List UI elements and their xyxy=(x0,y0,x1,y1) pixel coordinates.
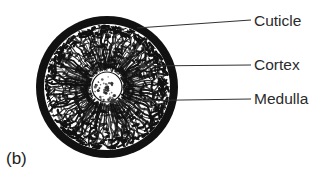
leader-dot-cortex xyxy=(141,64,145,68)
figure-container: Cuticle Cortex Medulla (b) xyxy=(0,0,329,183)
label-cortex: Cortex xyxy=(254,57,300,73)
label-medulla: Medulla xyxy=(254,91,308,107)
label-cuticle: Cuticle xyxy=(254,13,301,29)
leader-dot-medulla xyxy=(111,99,115,103)
panel-letter: (b) xyxy=(6,150,27,167)
medulla-layer xyxy=(92,72,122,102)
